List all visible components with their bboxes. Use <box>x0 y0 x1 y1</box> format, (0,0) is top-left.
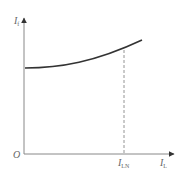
origin-label: O <box>13 150 20 160</box>
chart-canvas <box>0 0 183 176</box>
x-axis-label: IL <box>160 158 167 169</box>
excitation-curve <box>25 40 142 68</box>
rated-current-label-sub: LN <box>121 163 129 169</box>
y-axis-label: If <box>14 16 19 27</box>
rated-current-label: ILN <box>118 158 129 169</box>
y-axis-label-sub: f <box>17 21 19 27</box>
x-axis-label-sub: L <box>163 163 167 169</box>
